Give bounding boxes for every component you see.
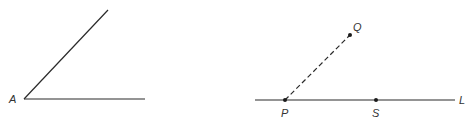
point-p xyxy=(283,98,287,102)
ray-a-diagonal xyxy=(24,10,108,99)
label-p: P xyxy=(281,107,289,119)
angle-a-figure: A xyxy=(8,10,145,105)
label-s: S xyxy=(372,107,380,119)
line-l-figure: P S Q L xyxy=(255,21,465,119)
label-l: L xyxy=(459,94,465,106)
point-q xyxy=(348,33,352,37)
point-s xyxy=(374,98,378,102)
label-q: Q xyxy=(353,21,362,33)
dashed-segment-pq xyxy=(285,35,350,100)
geometry-diagram: A P S Q L xyxy=(0,0,466,125)
label-a: A xyxy=(8,93,16,105)
